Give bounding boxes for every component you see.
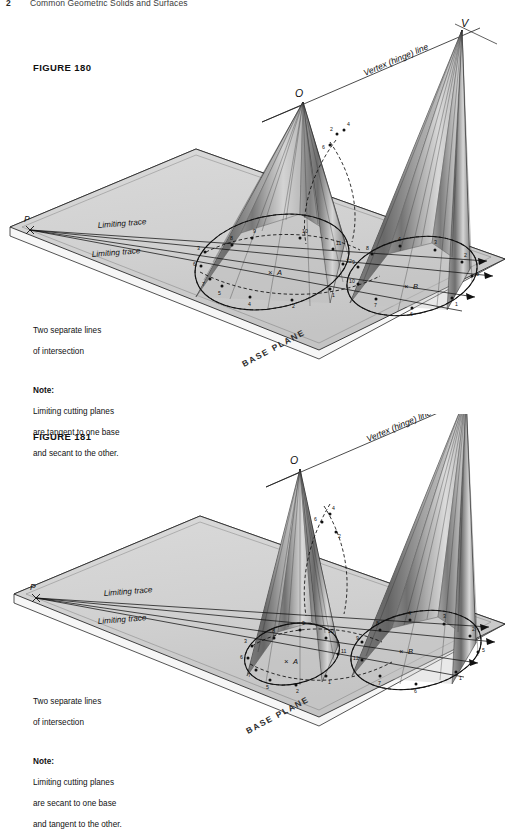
figure-181: FIGURE 181 Two separate lines of interse… [0,414,515,785]
svg-text:9: 9 [253,228,256,234]
svg-text:4: 4 [398,236,401,242]
vertex-v-label-180: V [461,17,470,29]
running-head: 2 Common Geometric Solids and Surfaces [0,0,515,10]
svg-text:6: 6 [322,144,325,150]
svg-text:7: 7 [378,680,381,686]
svg-text:7: 7 [374,302,377,308]
svg-text:2: 2 [464,252,467,258]
svg-text:2: 2 [472,626,475,632]
svg-text:12: 12 [353,655,359,661]
svg-text:10: 10 [328,628,334,634]
page-number: 2 [6,0,11,8]
svg-text:6: 6 [193,261,196,267]
svg-text:5: 5 [218,290,221,296]
point-p-label-181: P [30,582,36,592]
cone-v-181: × B [344,414,489,701]
svg-text:12: 12 [346,258,352,264]
svg-text:2: 2 [338,533,341,539]
note-body-2: are secant to one base [33,799,122,810]
svg-text:4: 4 [332,505,335,511]
svg-text:7: 7 [202,281,205,287]
svg-text:3: 3 [244,638,247,644]
svg-text:8: 8 [366,245,369,251]
center-mark-a-181: × [284,657,288,666]
svg-text:1: 1 [328,679,331,685]
svg-text:4: 4 [408,610,411,616]
center-label-a-181: A [292,657,298,666]
cone-v-180: × B [340,30,485,327]
svg-text:9: 9 [356,635,359,641]
svg-text:4: 4 [248,301,251,307]
hinge-line-label-181: Vertex (hinge) line [365,414,433,444]
svg-text:1: 1 [332,292,335,298]
svg-text:5: 5 [476,271,479,277]
note-body-3: and tangent to the other. [33,820,122,831]
svg-text:2: 2 [292,303,295,309]
svg-text:8: 8 [376,620,379,626]
svg-text:7: 7 [248,672,251,678]
svg-text:5: 5 [482,647,485,653]
figure-180: FIGURE 180 Two separate lines of interse… [0,14,515,414]
svg-text:9: 9 [352,259,355,265]
svg-text:3: 3 [197,245,200,251]
svg-text:6: 6 [314,516,317,522]
svg-text:8: 8 [272,628,275,634]
svg-text:10: 10 [349,278,355,284]
svg-text:2: 2 [296,688,299,694]
svg-text:3: 3 [443,613,446,619]
page-title: Common Geometric Solids and Surfaces [30,0,188,8]
center-label-a: A [276,268,282,277]
svg-text:3: 3 [434,239,437,245]
svg-text:11: 11 [341,648,346,654]
svg-text:11: 11 [336,240,341,246]
figure-181-drawing: × A [0,414,515,785]
svg-text:2: 2 [330,126,333,132]
svg-text:6: 6 [414,688,417,694]
svg-text:1: 1 [459,675,462,681]
hinge-line-label-180: Vertex (hinge) line [362,41,430,77]
svg-text:9: 9 [302,620,305,626]
svg-text:8: 8 [230,235,233,241]
center-label-b: B [413,282,418,291]
svg-text:6: 6 [240,654,243,660]
figure-180-drawing: × A [0,14,515,414]
center-label-b-181: B [408,647,413,656]
vertex-o-label-180: O [295,87,303,99]
svg-text:1: 1 [455,301,458,307]
point-p-label-180: P [24,214,30,224]
svg-text:10: 10 [302,228,308,234]
vertex-o-label-181: O [290,454,298,466]
svg-text:6: 6 [410,311,413,317]
svg-text:5: 5 [266,684,269,690]
svg-text:4: 4 [347,121,350,127]
